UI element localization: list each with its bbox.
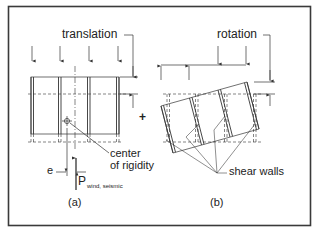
center-leader-line — [70, 123, 109, 153]
caption-a: (a) — [68, 197, 81, 208]
rotation-bracket — [263, 35, 270, 80]
figure-frame — [9, 7, 311, 226]
translation-heading: translation — [62, 28, 117, 40]
panel-b-rotation — [161, 35, 275, 173]
load-arrows-a — [32, 46, 118, 61]
center-of-rigidity-label-1: center — [110, 148, 141, 159]
force-symbol: P — [78, 174, 86, 188]
displaced-outline-a — [28, 94, 128, 142]
rotation-heading: rotation — [217, 28, 257, 40]
force-subscript: wind, seismic — [87, 183, 123, 189]
center-of-rigidity-label-2: of rigidity — [110, 160, 154, 171]
plus-operator: + — [139, 111, 146, 123]
shear-walls-label: shear walls — [229, 166, 284, 177]
rotated-plan-b — [161, 82, 259, 153]
caption-b: (b) — [210, 197, 223, 208]
torsion-diagram — [0, 0, 316, 232]
translation-bracket — [124, 35, 133, 76]
center-of-rigidity-marker — [62, 116, 72, 126]
eccentricity-label: e — [47, 165, 53, 176]
force-label: Pwind, seismic — [78, 175, 123, 187]
